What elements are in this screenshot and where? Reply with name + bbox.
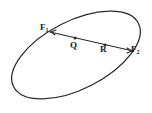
label-f2-subscript: 2 [137,49,140,55]
focal-chord-segment [50,32,133,51]
label-q: Q [70,41,77,50]
ellipse-figure: F1 Q R F2 [0,0,152,113]
label-f2-letter: F [131,44,137,54]
label-f1-letter: F [40,22,46,32]
label-f2: F2 [131,45,140,54]
ellipse-outline [0,0,152,113]
ellipse-group [0,0,152,113]
label-f1: F1 [40,23,49,32]
label-r: R [100,45,107,54]
figure-canvas [0,0,152,113]
label-f1-subscript: 1 [46,27,49,33]
focal-chord-group [50,30,133,53]
